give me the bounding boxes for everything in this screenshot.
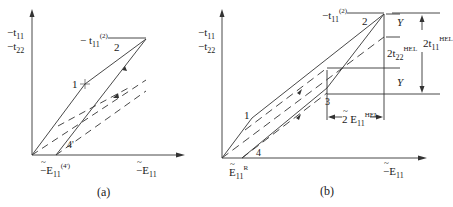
b-2e11-hel: 2 E11HEL	[342, 112, 378, 128]
b-point-3: 3	[325, 97, 330, 107]
a-x-origin-label: −E11(4')	[40, 163, 70, 179]
b-y-label-t22: −t22	[198, 41, 215, 55]
a-peak-label: − t11(2)	[80, 33, 108, 49]
a-y-label-t22: −t22	[7, 41, 24, 55]
a-point-2: 2	[114, 42, 120, 53]
b-2t11-hel: 2t11HEL	[423, 36, 453, 52]
b-caption: (b)	[320, 184, 334, 199]
b-y-bottom: Y	[397, 77, 403, 88]
b-x-axis-label: −E11	[383, 166, 404, 180]
b-point-4: 4	[256, 148, 261, 158]
a-x-axis-label: −E11	[136, 165, 157, 179]
b-2t22-hel: 2t22HEL	[387, 46, 417, 62]
b-y-label-t11: −t11	[198, 27, 215, 41]
b-point-1: 1	[244, 110, 250, 121]
b-point-2: 2	[362, 16, 368, 27]
a-y-label-t11: −t11	[7, 27, 24, 41]
b-peak-label: −t11(2)	[322, 8, 347, 24]
a-point-1: 1	[72, 79, 78, 90]
a-point-4p: 4'	[67, 140, 74, 150]
a-caption: (a)	[97, 185, 110, 200]
b-x-origin-label: E11R	[229, 165, 248, 181]
b-y-top: Y	[397, 17, 403, 28]
